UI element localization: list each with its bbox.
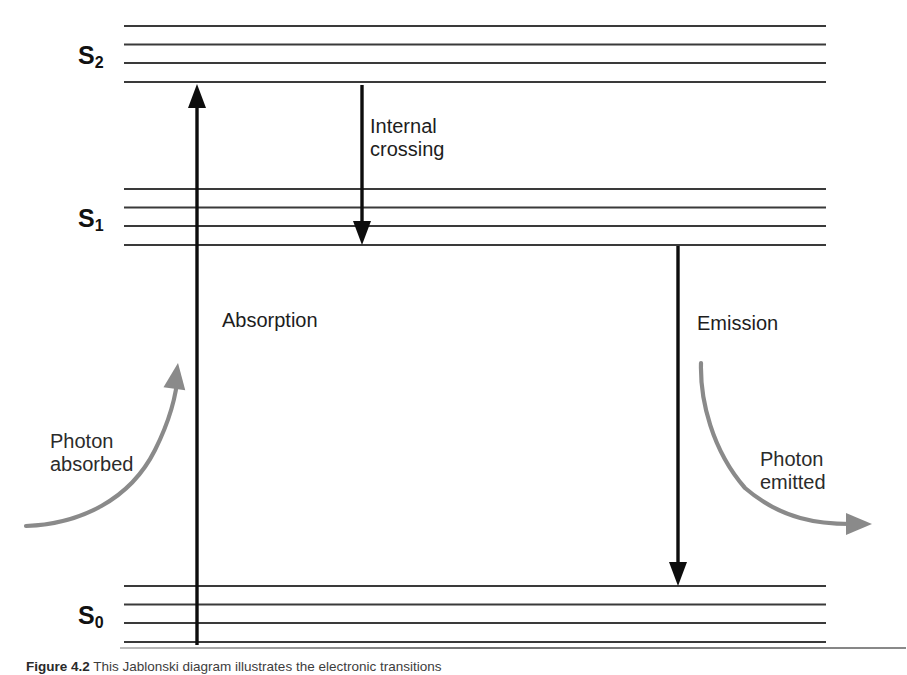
photon-emitted-curve	[701, 363, 851, 524]
internal-crossing-label-line2: crossing	[370, 138, 444, 161]
transition-arrows-group	[188, 84, 687, 645]
internal-crossing-arrow-head	[353, 221, 371, 245]
figure-caption: Figure 4.2 This Jablonski diagram illust…	[26, 659, 896, 675]
internal-crossing-label: Internal crossing	[370, 115, 444, 161]
photon-absorbed-label-line1: Photon	[50, 430, 133, 453]
photon-emitted-label-line2: emitted	[760, 471, 826, 494]
emission-label: Emission	[697, 312, 778, 335]
photon-curves-group	[26, 363, 872, 535]
absorption-label: Absorption	[222, 309, 318, 332]
state-label-s1: S1	[78, 206, 104, 231]
state-label-subscript: 0	[95, 614, 104, 631]
state-label-subscript: 1	[95, 217, 104, 234]
caption-divider-rule	[120, 647, 906, 649]
emission-arrow-head	[669, 562, 687, 586]
state-label-base: S	[78, 204, 95, 232]
figure-caption-number: Figure 4.2	[26, 659, 90, 674]
photon-emitted-label: Photon emitted	[760, 448, 826, 494]
photon-absorbed-arrow-head	[163, 363, 185, 390]
state-label-s2: S2	[78, 43, 104, 68]
internal-crossing-label-line1: Internal	[370, 115, 444, 138]
state-label-subscript: 2	[95, 54, 104, 71]
absorption-arrow-head	[188, 84, 206, 108]
state-label-s0: S0	[78, 603, 104, 628]
photon-absorbed-label: Photon absorbed	[50, 430, 133, 476]
state-label-base: S	[78, 601, 95, 629]
photon-absorbed-label-line2: absorbed	[50, 453, 133, 476]
photon-emitted-arrow-head	[846, 513, 872, 535]
figure-caption-text: This Jablonski diagram illustrates the e…	[93, 659, 441, 674]
state-label-base: S	[78, 41, 95, 69]
photon-emitted-label-line1: Photon	[760, 448, 826, 471]
